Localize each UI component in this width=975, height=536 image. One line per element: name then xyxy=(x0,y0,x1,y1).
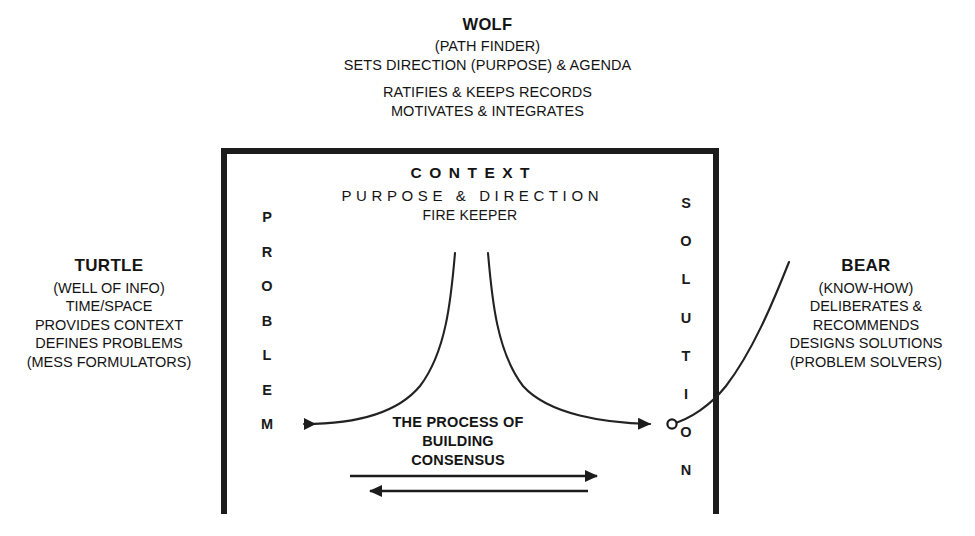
axis-letter-solution-2: L xyxy=(673,272,699,310)
axis-letter-problem-4: L xyxy=(254,348,280,383)
context-header-block: CONTEXT PURPOSE & DIRECTION FIRE KEEPER xyxy=(230,163,710,225)
bear-line-4: DESIGNS SOLUTIONS xyxy=(757,334,975,353)
axis-letter-solution-7: N xyxy=(673,463,699,501)
frame-left-bar xyxy=(221,148,227,514)
wolf-line-2: RATIFIES & KEEPS RECORDS xyxy=(0,83,975,102)
process-line-3: CONSENSUS xyxy=(333,451,583,470)
axis-letter-solution-0: S xyxy=(673,196,699,234)
axis-letter-problem-1: R xyxy=(254,245,280,280)
turtle-line-5: (MESS FORMULATORS) xyxy=(0,353,218,372)
curve-to-solution xyxy=(488,253,650,424)
turtle-line-3: PROVIDES CONTEXT xyxy=(0,316,218,335)
axis-letter-solution-4: T xyxy=(673,349,699,387)
bear-line-1: (KNOW-HOW) xyxy=(757,279,975,298)
frame-right-bar xyxy=(713,148,719,514)
axis-letter-problem-2: O xyxy=(254,279,280,314)
bear-line-5: (PROBLEM SOLVERS) xyxy=(757,353,975,372)
axis-letter-problem-6: M xyxy=(254,417,280,452)
axis-letter-solution-6: O xyxy=(673,425,699,463)
bear-role-block: BEAR (KNOW-HOW) DELIBERATES & RECOMMENDS… xyxy=(757,255,975,371)
turtle-line-2: TIME/SPACE xyxy=(0,297,218,316)
process-line-2: BUILDING xyxy=(333,432,583,451)
axis-letter-problem-5: E xyxy=(254,383,280,418)
context-subtitle: PURPOSE & DIRECTION xyxy=(230,186,710,205)
turtle-role-block: TURTLE (WELL OF INFO) TIME/SPACE PROVIDE… xyxy=(0,255,218,371)
axis-label-problem: PROBLEM xyxy=(254,210,280,452)
turtle-line-1: (WELL OF INFO) xyxy=(0,279,218,298)
axis-label-solution: SOLUTION xyxy=(673,196,699,502)
curve-to-problem xyxy=(304,253,455,424)
wolf-line-1: SETS DIRECTION (PURPOSE) & AGENDA xyxy=(0,56,975,75)
context-role: FIRE KEEPER xyxy=(230,207,710,225)
frame-top-bar xyxy=(221,148,719,154)
process-line-1: THE PROCESS OF xyxy=(333,413,583,432)
axis-letter-solution-3: U xyxy=(673,311,699,349)
bear-line-3: RECOMMENDS xyxy=(757,316,975,335)
bear-line-2: DELIBERATES & xyxy=(757,297,975,316)
turtle-title: TURTLE xyxy=(0,255,218,277)
axis-letter-solution-5: I xyxy=(673,387,699,425)
axis-letter-solution-1: O xyxy=(673,234,699,272)
diagram-canvas: WOLF (PATH FINDER) SETS DIRECTION (PURPO… xyxy=(0,0,975,536)
process-caption: THE PROCESS OF BUILDING CONSENSUS xyxy=(333,413,583,470)
wolf-role-block: WOLF (PATH FINDER) SETS DIRECTION (PURPO… xyxy=(0,14,975,120)
wolf-title: WOLF xyxy=(0,14,975,35)
axis-letter-problem-3: B xyxy=(254,314,280,349)
bear-title: BEAR xyxy=(757,255,975,277)
wolf-line-3: MOTIVATES & INTEGRATES xyxy=(0,102,975,121)
axis-letter-problem-0: P xyxy=(254,210,280,245)
context-title: CONTEXT xyxy=(230,163,710,183)
wolf-subtitle: (PATH FINDER) xyxy=(0,37,975,56)
wolf-spacer xyxy=(0,74,975,83)
turtle-line-4: DEFINES PROBLEMS xyxy=(0,334,218,353)
